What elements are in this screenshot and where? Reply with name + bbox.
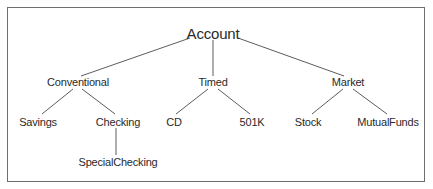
node-conventional: Conventional	[47, 76, 109, 88]
edge-conventional-savings	[42, 89, 73, 114]
node-cd: CD	[166, 116, 182, 128]
node-market: Market	[332, 76, 364, 88]
edge-account-conventional	[81, 38, 190, 76]
edge-timed-cd	[176, 89, 208, 114]
node-timed: Timed	[198, 76, 227, 88]
node-specialchecking: SpecialChecking	[79, 156, 158, 168]
edge-market-mutualfunds	[353, 89, 387, 114]
edge-account-market	[238, 38, 344, 76]
edge-market-stock	[312, 89, 343, 114]
edge-conventional-checking	[82, 89, 115, 114]
node-account: Account	[187, 25, 240, 42]
edge-timed-501k	[218, 89, 250, 114]
node-stock: Stock	[295, 116, 322, 128]
node-savings: Savings	[19, 116, 57, 128]
node-501k: 501K	[240, 116, 265, 128]
node-checking: Checking	[96, 116, 140, 128]
node-mutualfunds: MutualFunds	[357, 116, 418, 128]
